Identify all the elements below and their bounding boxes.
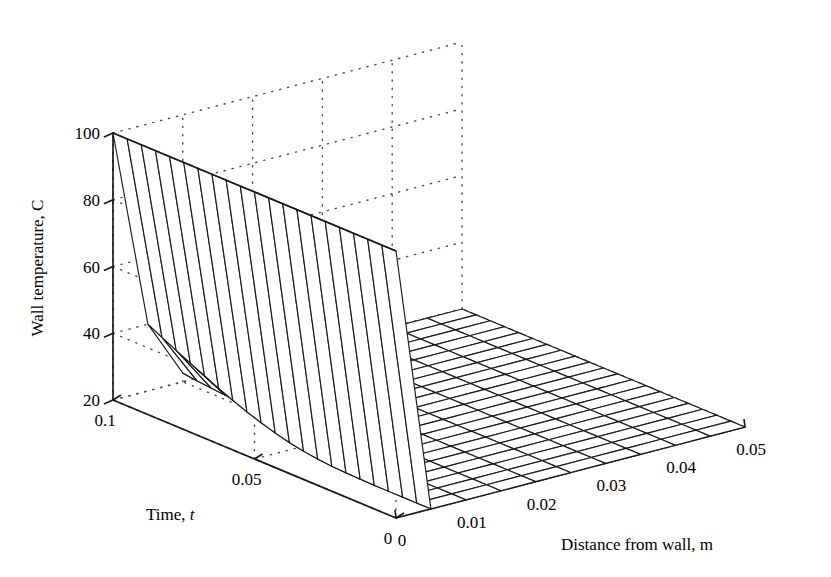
distance-axis-tick-label: 0.02 xyxy=(527,495,557,514)
y-axis-tick-label: 60 xyxy=(83,258,100,277)
y-axis-tick xyxy=(104,133,113,137)
distance-axis-tick-label: 0 xyxy=(398,531,407,550)
distance-axis-tick-label: 0.05 xyxy=(736,440,766,459)
y-axis-tick xyxy=(104,267,113,271)
distance-axis-tick-label: 0.03 xyxy=(597,476,627,495)
distance-axis-tick-label: 0.04 xyxy=(666,458,696,477)
time-axis-tick xyxy=(255,454,263,459)
time-axis-tick-label: 0.05 xyxy=(232,470,262,489)
distance-axis-tick xyxy=(395,510,396,518)
y-axis-tick xyxy=(104,200,113,204)
time-axis-tick-label: 0.1 xyxy=(94,411,115,430)
time-axis-tick xyxy=(113,395,121,400)
distance-axis-tick xyxy=(744,419,745,427)
figure-3d-surface-plot: 204060801000.10.05000.010.020.030.040.05… xyxy=(0,0,831,577)
time-axis-tick-label: 0 xyxy=(384,529,393,548)
y-axis-tick-label: 20 xyxy=(83,391,100,410)
y-axis-tick xyxy=(104,333,113,337)
y-axis-tick xyxy=(104,400,113,404)
plot-canvas: 204060801000.10.05000.010.020.030.040.05 xyxy=(0,0,831,577)
y-axis-tick-label: 80 xyxy=(83,191,100,210)
y-axis-tick-label: 40 xyxy=(83,324,100,343)
distance-axis-tick-label: 0.01 xyxy=(457,513,487,532)
y-axis-tick-label: 100 xyxy=(75,124,101,143)
gridline-back-wall-z xyxy=(113,42,462,133)
